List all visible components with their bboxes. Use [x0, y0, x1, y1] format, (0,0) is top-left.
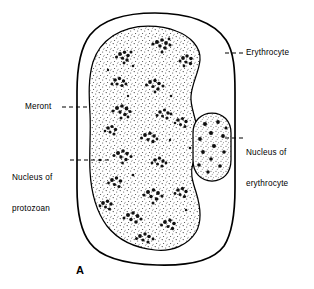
panel-letter-a: A	[76, 264, 84, 276]
nucleus-of-erythrocyte	[193, 113, 231, 181]
label-nucleus-of-protozoan-line1: Nucleus of	[12, 173, 52, 183]
label-nucleus-of-protozoan: Nucleus of protozoan	[12, 153, 52, 235]
label-erythrocyte: Erythrocyte	[246, 48, 289, 58]
label-meront: Meront	[25, 102, 51, 112]
label-nucleus-of-erythrocyte-line1: Nucleus of	[246, 148, 288, 158]
figure-panel-a: Erythrocyte Meront Nucleus of protozoan …	[0, 0, 314, 289]
label-nucleus-of-protozoan-line2: protozoan	[12, 204, 52, 214]
label-nucleus-of-erythrocyte: Nucleus of erythrocyte	[246, 128, 288, 210]
label-nucleus-of-erythrocyte-line2: erythrocyte	[246, 179, 288, 189]
